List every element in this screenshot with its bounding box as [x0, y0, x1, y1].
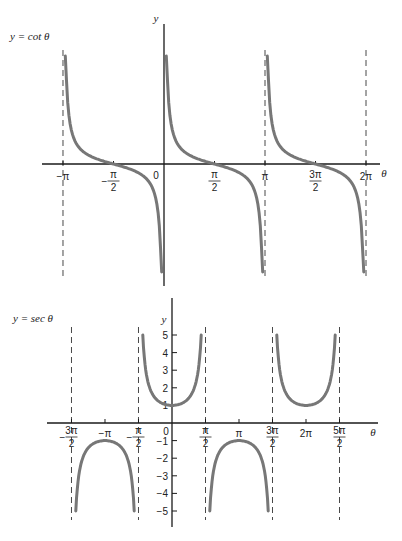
tick-label-0: 0 [153, 170, 159, 181]
x-tick-label: π2 [200, 425, 212, 449]
x-tick-label: 2π [360, 171, 373, 182]
tick-label-0: 0 [163, 426, 169, 437]
y-tick-label: −3 [157, 471, 169, 482]
y-tick-label: 2 [162, 383, 168, 394]
sec-title: y = sec θ [13, 312, 53, 324]
cot-title: y = cot θ [10, 30, 49, 42]
y-tick-label: −5 [157, 506, 169, 517]
y-tick-label: 3 [162, 365, 168, 376]
denominator: 2 [270, 438, 276, 449]
numerator: 3π [266, 425, 279, 436]
minus-sign: − [127, 432, 133, 443]
sec-branch [210, 441, 268, 511]
minus-sign: − [102, 176, 108, 187]
x-tick-label: −π2 [102, 169, 120, 193]
sec-branch [277, 335, 335, 405]
denominator: 2 [337, 438, 343, 449]
y-tick-label: −2 [157, 453, 169, 464]
x-axis-label: θ [370, 426, 376, 438]
denominator: 2 [136, 438, 142, 449]
x-tick-label: 3π2 [266, 425, 279, 449]
numerator: 3π [309, 169, 322, 180]
numerator: π [110, 169, 117, 180]
x-tick-label: −3π2 [60, 425, 78, 449]
numerator: π [211, 169, 218, 180]
y-axis-label: y [161, 313, 167, 325]
y-tick-label: 4 [162, 348, 168, 359]
y-tick-label: −4 [157, 488, 169, 499]
y-axis-label: y [153, 12, 159, 24]
denominator: 2 [203, 438, 209, 449]
figure: yθ−π−π20π2π3π22π yθ54321−1−2−3−4−5−3π2−π… [0, 0, 402, 541]
numerator: π [135, 425, 142, 436]
cot-graph: yθ−π−π20π2π3π22π [42, 12, 387, 286]
numerator: 5π [333, 425, 346, 436]
x-axis-label: θ [381, 167, 387, 179]
denominator: 2 [212, 182, 218, 193]
x-tick-label: π2 [209, 169, 221, 193]
numerator: 3π [65, 425, 78, 436]
x-tick-label: −π [57, 171, 70, 182]
numerator: π [202, 425, 209, 436]
y-tick-label: −1 [157, 436, 169, 447]
denominator: 2 [69, 438, 75, 449]
denominator: 2 [111, 182, 117, 193]
x-tick-label: 5π2 [333, 425, 346, 449]
x-tick-label: π [236, 428, 243, 439]
x-tick-label: 3π2 [309, 169, 322, 193]
x-tick-label: −π2 [127, 425, 145, 449]
denominator: 2 [313, 182, 319, 193]
sec-graph: yθ54321−1−2−3−4−5−3π2−π−π20π2π3π22π5π2 [47, 298, 378, 527]
x-tick-label: π [262, 171, 269, 182]
x-tick-label: 2π [300, 428, 313, 439]
y-tick-label: 5 [162, 330, 168, 341]
sec-branch [76, 441, 134, 511]
x-tick-label: −π [99, 428, 112, 439]
